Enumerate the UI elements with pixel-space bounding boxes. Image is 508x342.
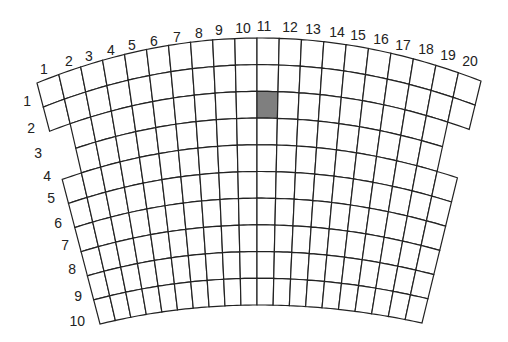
grid-cell [200, 173, 220, 201]
grid-cell [191, 40, 214, 69]
grid-cell [274, 225, 293, 252]
grid-cell [334, 150, 356, 179]
grid-cell [275, 198, 294, 225]
grid-cell [299, 66, 322, 94]
grid-cell [257, 118, 277, 145]
grid-cell [309, 227, 329, 255]
grid-cell [216, 119, 237, 147]
grid-cell [150, 72, 174, 102]
grid-cell [311, 201, 332, 229]
column-label: 4 [107, 42, 115, 58]
grid-cell [235, 65, 257, 92]
grid-cell [240, 252, 257, 279]
column-label: 3 [85, 48, 93, 64]
grid-cell [159, 151, 181, 180]
grid-cell [277, 118, 298, 146]
column-label: 9 [215, 22, 223, 38]
grid-cell [274, 252, 292, 279]
row-label: 5 [47, 190, 55, 206]
column-label: 16 [373, 31, 389, 47]
grid-cell [257, 65, 279, 92]
grid-cell [289, 279, 307, 306]
grid-cell [224, 279, 241, 306]
grid-cell [238, 198, 257, 225]
grid-cell [218, 145, 238, 173]
grid-cell [220, 199, 239, 227]
column-label: 2 [65, 53, 73, 69]
grid-cell [318, 95, 341, 124]
grid-cell [188, 254, 207, 282]
column-label: 14 [329, 24, 345, 40]
column-label: 11 [257, 18, 272, 34]
grid-cell [202, 199, 222, 227]
grid-cell [360, 101, 384, 131]
grid-cell [153, 98, 176, 128]
grid-cell [322, 42, 346, 71]
grid-cell [294, 173, 315, 201]
grid-cell [147, 45, 171, 75]
column-label: 18 [418, 41, 434, 57]
grid-cell [156, 124, 179, 153]
row-label: 4 [43, 168, 51, 184]
grid-cell [307, 254, 326, 282]
grid-cell [198, 146, 219, 174]
grid-cell [315, 148, 337, 177]
column-label: 8 [195, 25, 203, 41]
grid-cell [128, 76, 152, 106]
grid-cell [196, 120, 217, 148]
grid-cell [336, 124, 359, 153]
grid-cell [332, 176, 354, 205]
grid-cell [300, 40, 324, 69]
grid-cell [171, 69, 194, 98]
grid-cell [221, 225, 239, 252]
grid-cell [139, 154, 162, 184]
column-label: 17 [395, 37, 411, 53]
grid-cell [240, 278, 257, 305]
grid-cell [235, 38, 257, 65]
row-label: 8 [68, 261, 76, 277]
grid-cell [366, 49, 391, 80]
grid-cell [278, 65, 300, 93]
grid-cell [329, 203, 350, 232]
grid-cell [214, 65, 236, 93]
grid-cell [313, 174, 334, 202]
grid-cell [238, 172, 257, 199]
grid-cell [162, 177, 183, 206]
column-label: 20 [462, 53, 478, 69]
grid-cell [344, 45, 369, 75]
grid-cell [219, 172, 239, 200]
grid-cell [236, 91, 257, 118]
grid-cell [291, 252, 310, 280]
shaded-grid-cell [257, 91, 278, 118]
grid-cell [207, 279, 225, 307]
grid-cell [191, 280, 209, 308]
grid-cell [178, 148, 199, 177]
grid-cell [257, 38, 279, 65]
grid-cell [292, 226, 311, 254]
grid-cell [174, 282, 193, 310]
grid-cell [277, 92, 299, 120]
grid-cell [339, 97, 363, 127]
row-label: 10 [69, 313, 85, 329]
grid-cell [317, 121, 339, 150]
grid-cell [136, 128, 159, 158]
grid-cell [181, 175, 202, 204]
grid-cell [176, 122, 198, 151]
grid-cell [237, 145, 257, 172]
grid-cell [173, 95, 196, 124]
grid-cell [276, 145, 296, 173]
grid-cell [165, 203, 186, 232]
column-label: 5 [128, 37, 136, 53]
curved-grid-diagram: 1234567891011121314151617181920 12345678… [0, 0, 508, 342]
grid-cell [223, 252, 241, 279]
grid-cell [169, 42, 193, 71]
row-label: 9 [74, 288, 82, 304]
column-label: 13 [305, 21, 321, 37]
grid-cell [186, 227, 206, 255]
column-label: 19 [440, 47, 456, 63]
grid-cells [37, 38, 481, 324]
row-label: 6 [54, 215, 62, 231]
grid-cell [298, 93, 320, 121]
grid-cell [276, 172, 296, 199]
column-label: 6 [150, 33, 158, 49]
